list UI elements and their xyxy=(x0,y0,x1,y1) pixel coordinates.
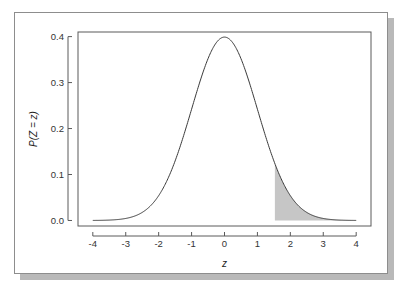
figure-root: -4-3-2-101234 0.00.10.20.30.4 z P(Z = z) xyxy=(0,0,412,296)
x-axis-tick-label: -4 xyxy=(89,238,97,249)
x-axis-tick-label: 1 xyxy=(255,238,260,249)
x-axis-tick-label: 4 xyxy=(354,238,359,249)
x-axis-tick-label: 2 xyxy=(288,238,293,249)
y-axis-tick-label: 0.2 xyxy=(51,123,64,134)
figure-card: -4-3-2-101234 0.00.10.20.30.4 z P(Z = z) xyxy=(14,12,388,274)
x-axis-tick-label: 0 xyxy=(222,238,227,249)
y-axis-title: P(Z = z) xyxy=(28,111,39,147)
y-axis-tick-label: 0.0 xyxy=(51,215,64,226)
shaded-area-path xyxy=(275,164,356,221)
x-axis-title: z xyxy=(221,258,227,269)
normal-distribution-chart: -4-3-2-101234 0.00.10.20.30.4 z P(Z = z) xyxy=(15,13,387,273)
x-axis-tick-label: -1 xyxy=(187,238,195,249)
y-axis-tick-label: 0.4 xyxy=(51,31,64,42)
density-curve xyxy=(93,37,356,220)
y-axis: 0.00.10.20.30.4 xyxy=(51,31,72,226)
shaded-tail-region xyxy=(275,164,356,221)
x-axis-tick-label: -2 xyxy=(154,238,162,249)
y-axis-tick-label: 0.3 xyxy=(51,77,64,88)
x-axis: -4-3-2-101234 xyxy=(89,232,359,249)
x-axis-tick-label: 3 xyxy=(321,238,326,249)
x-axis-tick-label: -3 xyxy=(122,238,130,249)
y-axis-tick-label: 0.1 xyxy=(51,169,64,180)
plot-frame xyxy=(78,32,371,226)
density-curve-path xyxy=(93,37,356,220)
